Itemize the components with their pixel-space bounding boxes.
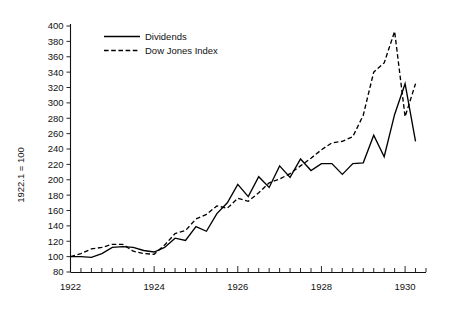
y-tick-label: 180 (48, 190, 64, 201)
legend-label-dividends: Dividends (145, 31, 187, 42)
legend-label-dow-jones-index: Dow Jones Index (145, 45, 218, 56)
x-axis-tick-labels: 19221924192619281930 (60, 281, 416, 292)
y-tick-label: 300 (48, 97, 64, 108)
y-tick-label: 160 (48, 205, 64, 216)
y-tick-label: 100 (48, 251, 64, 262)
y-tick-label: 360 (48, 51, 64, 62)
chart-legend: Dividends Dow Jones Index (104, 31, 218, 56)
y-tick-label: 380 (48, 36, 64, 47)
y-tick-label: 200 (48, 174, 64, 185)
chart-container: 8010012014016018020022024026028030032034… (0, 0, 454, 309)
x-tick-label: 1926 (227, 281, 248, 292)
y-tick-label: 400 (48, 20, 64, 31)
y-tick-label: 260 (48, 128, 64, 139)
x-tick-label: 1928 (311, 281, 332, 292)
y-tick-label: 340 (48, 67, 64, 78)
y-tick-label: 120 (48, 236, 64, 247)
x-tick-label: 1924 (144, 281, 165, 292)
x-tick-label: 1930 (395, 281, 416, 292)
y-tick-label: 240 (48, 143, 64, 154)
line-chart: 8010012014016018020022024026028030032034… (0, 0, 454, 309)
y-axis-title: 1922.1 = 100 (15, 147, 26, 203)
y-axis-tick-labels: 8010012014016018020022024026028030032034… (48, 20, 64, 277)
y-tick-label: 80 (53, 266, 64, 277)
series-line-dividends (71, 84, 416, 258)
y-tick-label: 140 (48, 220, 64, 231)
series-line-dow-jones-index (71, 31, 416, 256)
y-tick-label: 220 (48, 159, 64, 170)
y-axis-ticks (67, 26, 71, 272)
x-tick-label: 1922 (60, 281, 81, 292)
x-axis-ticks (71, 266, 427, 272)
y-tick-label: 320 (48, 82, 64, 93)
y-tick-label: 280 (48, 113, 64, 124)
